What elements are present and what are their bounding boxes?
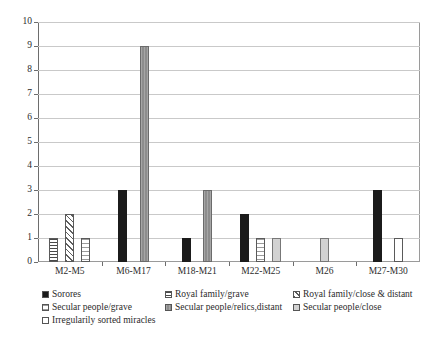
bar-m22-m25-s0 (240, 214, 249, 262)
x-tick-mark (102, 262, 103, 266)
y-tick-label: 2 (27, 209, 32, 219)
legend-swatch-icon (42, 291, 49, 298)
legend-label: Secular people/grave (52, 301, 132, 313)
bar-m2-m5-s1 (49, 238, 58, 262)
y-tick-label: 10 (23, 17, 33, 27)
legend-item[interactable]: Royal family/close & distant (293, 288, 413, 300)
chart-legend: SororesRoyal family/graveRoyal family/cl… (42, 288, 428, 327)
legend-row: Irregularily sorted miracles (42, 314, 428, 326)
y-tick-label: 3 (27, 185, 32, 195)
legend-swatch-icon (165, 291, 172, 298)
legend-swatch-icon (42, 304, 49, 311)
legend-row: Secular people/graveSecular people/relic… (42, 301, 428, 313)
x-tick-label: M18-M21 (178, 267, 217, 277)
legend-label: Secular people/relics,distant (175, 301, 282, 313)
bar-m18-m21-s0 (182, 238, 191, 262)
legend-item[interactable]: Sorores (42, 288, 165, 300)
bar-m22-m25-s3 (256, 238, 265, 262)
legend-item[interactable]: Secular people/close (293, 301, 381, 313)
x-axis: M2-M5M6-M17M18-M21M22-M25M26M27-M30 (38, 262, 420, 284)
legend-swatch-icon (165, 304, 172, 311)
bar-m27-m30-s0 (373, 190, 382, 262)
legend-label: Sorores (52, 288, 81, 300)
bar-m6-m17-s4 (140, 46, 149, 262)
legend-row: SororesRoyal family/graveRoyal family/cl… (42, 288, 428, 300)
legend-item[interactable]: Royal family/grave (165, 288, 293, 300)
y-tick-label: 0 (27, 257, 32, 267)
bars-layer (38, 22, 420, 262)
x-tick-mark (356, 262, 357, 266)
legend-item[interactable]: Secular people/grave (42, 301, 165, 313)
legend-swatch-icon (293, 291, 300, 298)
x-tick-label: M27-M30 (369, 267, 408, 277)
x-tick-mark (165, 262, 166, 266)
bar-m18-m21-s4 (203, 190, 212, 262)
bar-m22-m25-s5 (272, 238, 281, 262)
y-tick-label: 4 (27, 161, 32, 171)
x-tick-mark (293, 262, 294, 266)
y-tick-label: 5 (27, 137, 32, 147)
x-tick-label: M2-M5 (55, 267, 85, 277)
y-tick-label: 6 (27, 113, 32, 123)
x-tick-label: M26 (316, 267, 334, 277)
y-tick-label: 7 (27, 89, 32, 99)
y-tick-label: 8 (27, 65, 32, 75)
y-tick-label: 1 (27, 233, 32, 243)
x-tick-label: M6-M17 (116, 267, 150, 277)
bar-m26-s5 (320, 238, 329, 262)
bar-m2-m5-s2 (65, 214, 74, 262)
legend-label: Secular people/close (303, 301, 381, 313)
legend-item[interactable]: Irregularily sorted miracles (42, 314, 165, 326)
legend-label: Royal family/close & distant (303, 288, 413, 300)
bar-m6-m17-s0 (118, 190, 127, 262)
bar-m2-m5-s3 (81, 238, 90, 262)
y-tick-label: 9 (27, 41, 32, 51)
legend-swatch-icon (42, 317, 49, 324)
bar-chart: 012345678910 M2-M5M6-M17M18-M21M22-M25M2… (38, 22, 420, 262)
x-tick-mark (229, 262, 230, 266)
legend-swatch-icon (293, 304, 300, 311)
legend-label: Irregularily sorted miracles (52, 314, 155, 326)
legend-label: Royal family/grave (175, 288, 249, 300)
x-tick-label: M22-M25 (241, 267, 280, 277)
bar-m27-m30-s6 (394, 238, 403, 262)
legend-item[interactable]: Secular people/relics,distant (165, 301, 293, 313)
